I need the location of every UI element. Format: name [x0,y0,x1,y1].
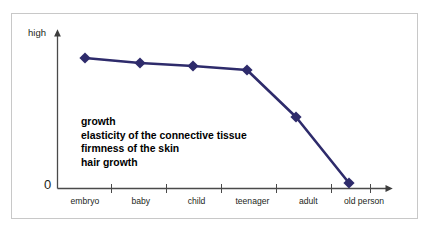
annotation-line-hair-growth: hair growth [81,156,311,170]
x-tick-label-child: child [169,197,225,213]
chart-figure: high 0 embryo baby child teenager adult … [0,0,429,231]
annotation-text-block: growth elasticity of the connective tiss… [81,115,311,169]
data-point-embryo [79,52,90,63]
y-axis-zero-label: 0 [44,178,51,191]
x-tick-label-adult: adult [280,197,336,213]
x-tick-label-embryo: embryo [57,197,113,213]
annotation-line-firmness: firmness of the skin [81,142,311,156]
x-axis-tick-labels: embryo baby child teenager adult old per… [57,197,392,213]
annotation-line-elasticity: elasticity of the connective tissue [81,129,311,143]
x-tick-label-old-person: old person [336,197,392,213]
y-axis-high-label: high [28,28,46,38]
data-point-baby [134,57,145,68]
x-tick-label-baby: baby [113,197,169,213]
x-tick-label-teenager: teenager [224,197,280,213]
annotation-line-growth: growth [81,115,311,129]
data-point-child [187,60,198,71]
